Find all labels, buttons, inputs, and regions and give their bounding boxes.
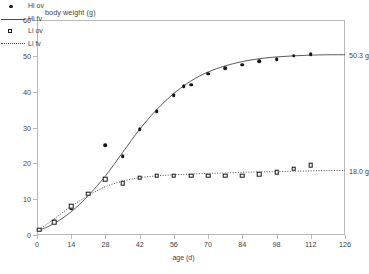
x-tick-label: 98 — [265, 240, 289, 249]
data-point — [182, 84, 186, 88]
legend-label: Li ov — [28, 27, 43, 34]
legend-item-hi-ov[interactable]: Hi ov — [0, 0, 72, 13]
data-point — [292, 54, 296, 58]
x-tick-mark — [105, 235, 106, 239]
x-tick-mark — [174, 235, 175, 239]
data-point — [241, 63, 245, 67]
value-annotation: 18.0 g — [349, 166, 369, 175]
x-tick-label: 70 — [196, 240, 220, 249]
data-point — [189, 174, 194, 179]
x-tick-mark — [311, 235, 312, 239]
legend-marker-icon — [0, 13, 24, 26]
y-tick-label: 20 — [5, 159, 31, 168]
x-tick-label: 56 — [162, 240, 186, 249]
legend-label: Hi ov — [28, 2, 44, 9]
legend-marker-icon — [0, 25, 24, 38]
plot-area — [37, 20, 345, 235]
data-point — [52, 220, 57, 225]
data-point — [308, 163, 313, 168]
y-tick-label: 30 — [5, 123, 31, 132]
legend-marker-icon — [0, 0, 24, 13]
data-point — [37, 227, 42, 232]
data-point — [258, 59, 262, 63]
x-tick-mark — [345, 235, 346, 239]
legend-label: Li fv — [28, 40, 41, 47]
y-tick-mark — [33, 56, 37, 57]
x-tick-label: 0 — [25, 240, 49, 249]
y-tick-mark — [33, 163, 37, 164]
data-point — [274, 170, 279, 175]
x-tick-mark — [71, 235, 72, 239]
legend-item-li-ov[interactable]: Li ov — [0, 25, 72, 38]
data-point — [257, 172, 262, 177]
x-tick-label: 28 — [93, 240, 117, 249]
y-tick-label: 50 — [5, 51, 31, 60]
legend-label: Hi fv — [28, 15, 42, 22]
x-tick-mark — [277, 235, 278, 239]
x-tick-mark — [242, 235, 243, 239]
y-tick-mark — [33, 128, 37, 129]
data-point — [69, 204, 74, 209]
legend-marker-icon — [0, 38, 24, 51]
data-point — [223, 67, 227, 71]
data-point — [121, 154, 125, 158]
y-tick-label: 10 — [5, 195, 31, 204]
x-tick-mark — [37, 235, 38, 239]
data-point — [86, 191, 91, 196]
data-point — [154, 174, 159, 179]
data-point — [137, 175, 142, 180]
y-tick-mark — [33, 199, 37, 200]
x-axis-label: age (d) — [0, 254, 367, 261]
data-point — [103, 177, 108, 182]
chart-legend: Hi ovHi fvLi ovLi fv — [0, 0, 72, 50]
x-tick-mark — [208, 235, 209, 239]
y-tick-label: 40 — [5, 87, 31, 96]
x-tick-label: 14 — [59, 240, 83, 249]
legend-item-li-fv[interactable]: Li fv — [0, 38, 72, 51]
data-point — [189, 83, 193, 87]
data-point — [172, 174, 177, 179]
value-annotation: 50.3 g — [349, 50, 369, 59]
data-point — [223, 174, 228, 179]
data-point — [172, 93, 176, 97]
x-tick-label: 42 — [128, 240, 152, 249]
x-tick-label: 112 — [299, 240, 323, 249]
data-point — [291, 166, 296, 171]
y-tick-label: 0 — [5, 231, 31, 240]
data-point — [120, 181, 125, 186]
data-point — [240, 174, 245, 179]
data-point — [206, 72, 210, 76]
y-tick-mark — [33, 92, 37, 93]
data-point — [206, 174, 211, 179]
x-tick-mark — [140, 235, 141, 239]
data-point — [138, 127, 142, 131]
data-point — [104, 144, 108, 148]
data-point — [309, 52, 313, 56]
x-tick-label: 84 — [230, 240, 254, 249]
x-tick-label: 126 — [333, 240, 357, 249]
legend-item-hi-fv[interactable]: Hi fv — [0, 13, 72, 26]
data-point — [155, 110, 159, 114]
data-point — [275, 58, 279, 62]
